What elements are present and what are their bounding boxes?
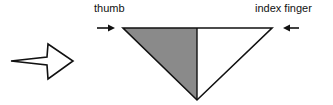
direction-arrow-icon	[11, 44, 73, 79]
thumb-pointer-arrow-icon	[97, 25, 115, 32]
index-finger-label: index finger	[255, 2, 312, 14]
thumb-label: thumb	[94, 2, 125, 14]
diagram-canvas	[0, 0, 333, 105]
index-pointer-arrow-icon	[283, 25, 299, 32]
